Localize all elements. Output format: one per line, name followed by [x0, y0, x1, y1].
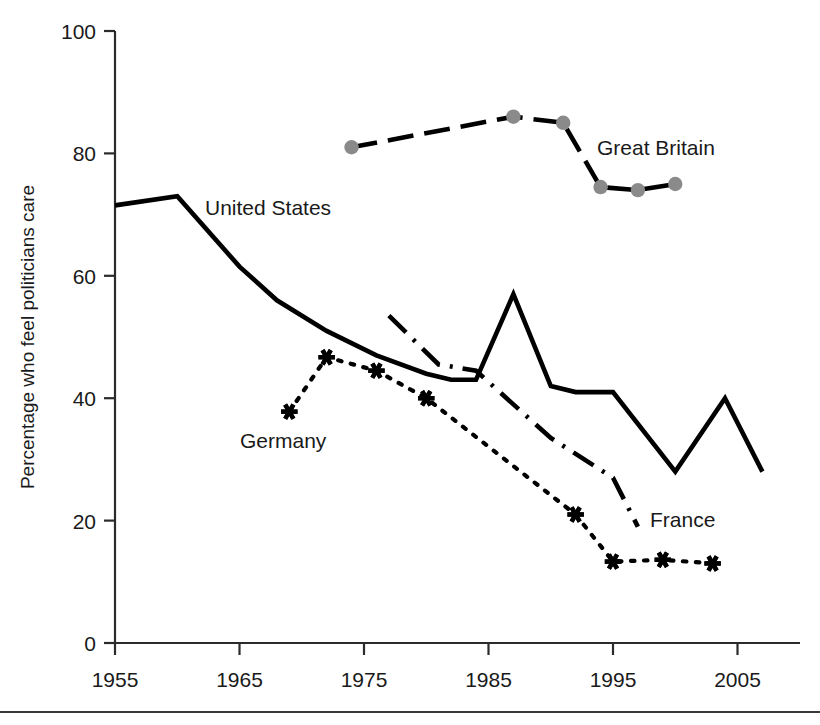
x-tick-label: 2005 [714, 668, 761, 691]
y-tick-label: 100 [61, 20, 96, 43]
y-tick-label: 40 [73, 387, 96, 410]
series-label-france: France [650, 508, 715, 531]
y-tick-label: 80 [73, 142, 96, 165]
chart-figure: 020406080100 195519651975198519952005 Pe… [0, 0, 820, 725]
data-point-marker [344, 140, 358, 154]
data-point-marker [668, 177, 682, 191]
data-point-marker [631, 183, 645, 197]
x-tick-label: 1955 [92, 668, 139, 691]
x-tick-label: 1995 [590, 668, 637, 691]
data-point-marker [506, 109, 520, 123]
line-chart-canvas: 020406080100 195519651975198519952005 Pe… [0, 0, 820, 725]
x-tick-label: 1965 [216, 668, 263, 691]
data-point-marker [556, 116, 570, 130]
x-tick-label: 1975 [341, 668, 388, 691]
y-tick-label: 20 [73, 510, 96, 533]
data-point-marker [593, 180, 607, 194]
y-tick-label: 60 [73, 265, 96, 288]
y-tick-label: 0 [84, 632, 96, 655]
y-axis-title: Percentage who feel politicians care [17, 185, 38, 489]
series-label-germany: Germany [240, 429, 327, 452]
series-label-united-states: United States [205, 196, 331, 219]
chart-background [0, 0, 820, 725]
x-tick-label: 1985 [465, 668, 512, 691]
series-label-great-britain: Great Britain [597, 136, 715, 159]
